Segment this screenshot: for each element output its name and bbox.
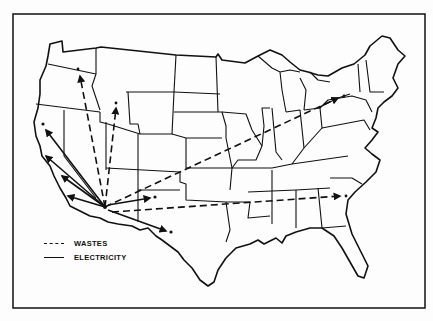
solid-line-swatch: [44, 257, 64, 258]
us-map: [0, 0, 433, 321]
waste-flows: [80, 76, 340, 212]
map-figure: WASTES ELECTRICITY: [0, 0, 433, 321]
legend-item-wastes: WASTES: [44, 236, 126, 250]
hub-point: [103, 205, 107, 209]
great-lakes: [258, 56, 350, 112]
legend: WASTES ELECTRICITY: [44, 236, 126, 264]
legend-item-electricity: ELECTRICITY: [44, 250, 126, 264]
waste-flow-idaho: [105, 108, 116, 207]
electricity-flow-new-mexico: [108, 198, 150, 205]
electricity-flow-north-california: [46, 130, 105, 207]
state-borders: [36, 48, 384, 242]
legend-label: WASTES: [74, 239, 107, 248]
waste-flow-washington: [80, 76, 105, 207]
legend-label: ELECTRICITY: [74, 253, 126, 262]
dashed-line-swatch: [44, 243, 64, 244]
waste-flow-northeast: [105, 98, 338, 207]
